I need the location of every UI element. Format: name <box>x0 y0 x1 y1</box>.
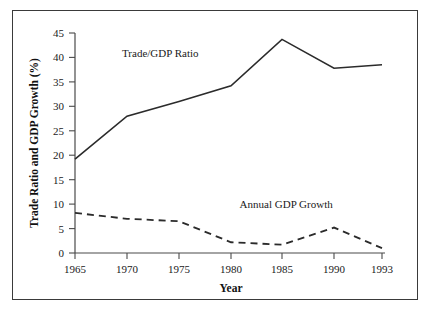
y-tick-label: 35 <box>53 76 65 88</box>
y-axis-title: Trade Ratio and GDP Growth (%) <box>28 58 41 228</box>
x-tick-label: 1993 <box>371 263 394 275</box>
y-tick-label: 10 <box>53 198 65 210</box>
y-tick-label: 40 <box>53 51 65 63</box>
x-tick-label: 1970 <box>116 263 139 275</box>
y-tick-label: 25 <box>53 125 65 137</box>
figure: 0 5 10 15 20 25 30 35 40 45 <box>0 0 434 317</box>
x-tick-label: 1985 <box>271 263 294 275</box>
x-tick-label: 1975 <box>168 263 191 275</box>
y-tick-label: 30 <box>53 100 65 112</box>
x-axis-ticks <box>75 253 382 259</box>
y-tick-labels: 0 5 10 15 20 25 30 35 40 45 <box>53 27 65 259</box>
series-annotation-trade-gdp-ratio: Trade/GDP Ratio <box>122 47 199 59</box>
x-tick-label: 1980 <box>220 263 243 275</box>
x-tick-label: 1990 <box>323 263 346 275</box>
y-tick-label: 15 <box>53 174 65 186</box>
chart-frame: 0 5 10 15 20 25 30 35 40 45 <box>12 10 418 300</box>
line-chart: 0 5 10 15 20 25 30 35 40 45 <box>13 11 416 298</box>
series-line-annual-gdp-growth <box>75 213 382 248</box>
y-tick-label: 20 <box>53 149 65 161</box>
y-axis-ticks <box>69 33 75 253</box>
x-tick-labels: 1965 1970 1975 1980 1985 1990 1993 <box>64 263 394 275</box>
series-annotation-annual-gdp-growth: Annual GDP Growth <box>240 198 334 210</box>
x-tick-label: 1965 <box>64 263 87 275</box>
y-tick-label: 45 <box>53 27 65 39</box>
y-tick-label: 0 <box>59 247 65 259</box>
y-tick-label: 5 <box>59 223 65 235</box>
x-axis-title: Year <box>220 282 243 294</box>
